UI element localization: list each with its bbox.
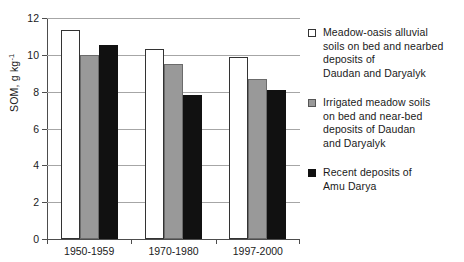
bar — [183, 95, 202, 239]
gridline — [47, 239, 300, 240]
legend-entry: Recent deposits of Amu Darya — [308, 166, 460, 193]
y-tick-label: 4 — [33, 160, 39, 171]
legend-label: Irrigated meadow soils on bed and near-b… — [323, 96, 430, 150]
legend-swatch — [308, 29, 316, 37]
legend-label: Recent deposits of Amu Darya — [323, 166, 412, 193]
y-tick-mark — [42, 129, 47, 130]
y-axis-title-exponent: -1 — [7, 54, 16, 61]
y-tick-mark — [42, 92, 47, 93]
x-tick-label: 1950-1959 — [64, 246, 114, 258]
plot-area: 024681012 1950-19591970-19801997-2000 — [47, 18, 300, 239]
y-tick-label: 8 — [33, 86, 39, 97]
gridline — [47, 18, 300, 19]
y-tick-label: 10 — [27, 50, 39, 61]
bar — [164, 64, 183, 239]
y-tick-label: 12 — [27, 13, 39, 24]
legend-label: Meadow-oasis alluvial soils on bed and n… — [323, 26, 443, 80]
y-tick-label: 0 — [33, 234, 39, 245]
bar — [61, 30, 80, 239]
legend-swatch — [308, 99, 316, 107]
bar — [99, 45, 118, 239]
y-tick-mark — [42, 18, 47, 19]
y-axis-title-text: SOM, g kg — [8, 61, 20, 112]
x-tick-label: 1997-2000 — [233, 246, 283, 258]
x-tick-mark — [47, 239, 48, 244]
x-tick-mark — [131, 239, 132, 244]
bar-chart-figure: SOM, g kg-1 024681012 1950-19591970-1980… — [0, 0, 464, 262]
y-axis-title: SOM, g kg-1 — [8, 22, 24, 112]
y-tick-label: 6 — [33, 123, 39, 134]
y-tick-mark — [42, 165, 47, 166]
bar — [267, 90, 286, 239]
bar — [80, 55, 99, 239]
legend-entry: Irrigated meadow soils on bed and near-b… — [308, 96, 460, 150]
legend: Meadow-oasis alluvial soils on bed and n… — [308, 26, 460, 209]
x-tick-label: 1970-1980 — [148, 246, 198, 258]
y-tick-mark — [42, 202, 47, 203]
x-tick-mark — [216, 239, 217, 244]
bar — [145, 49, 164, 239]
legend-entry: Meadow-oasis alluvial soils on bed and n… — [308, 26, 460, 80]
legend-swatch — [308, 169, 316, 177]
bar — [229, 57, 248, 239]
x-tick-mark — [299, 239, 300, 244]
y-tick-mark — [42, 55, 47, 56]
y-tick-label: 2 — [33, 197, 39, 208]
bar — [248, 79, 267, 239]
